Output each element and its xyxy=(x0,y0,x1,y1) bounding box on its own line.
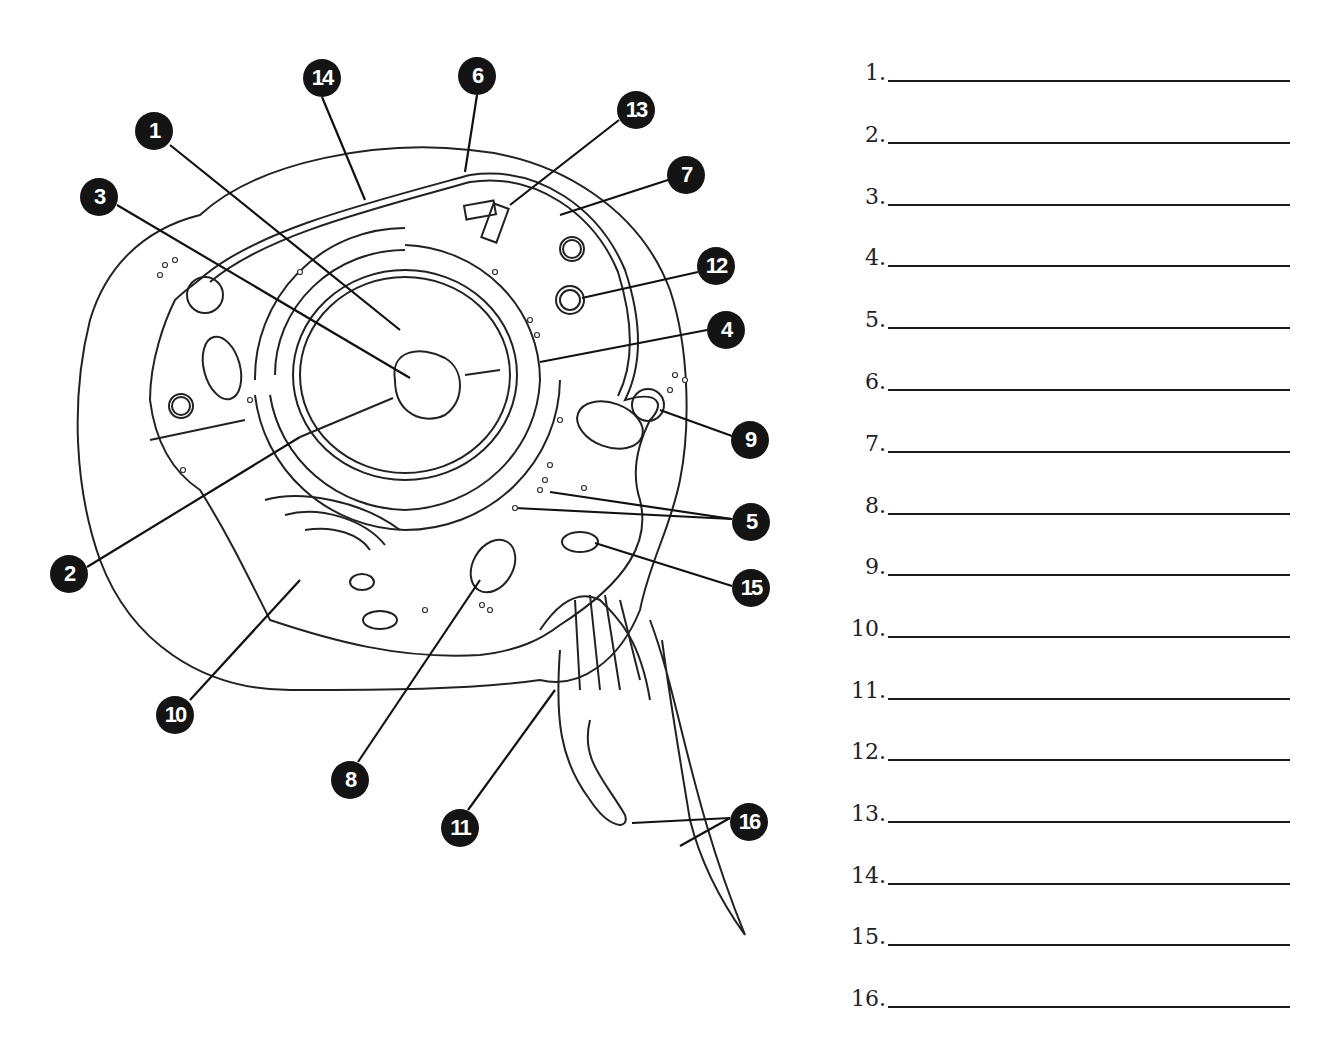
callout-marker-3: 3 xyxy=(80,178,118,216)
answer-number: 15. xyxy=(851,924,886,950)
answer-row-5[interactable]: 5. xyxy=(820,293,1335,333)
answer-blank[interactable] xyxy=(888,204,1290,206)
answer-row-2[interactable]: 2. xyxy=(820,108,1335,148)
answer-number: 8. xyxy=(865,493,886,519)
answer-blank[interactable] xyxy=(888,821,1290,823)
answer-blank[interactable] xyxy=(888,451,1290,453)
answer-number: 7. xyxy=(865,431,886,457)
answer-blank[interactable] xyxy=(888,759,1290,761)
answer-number: 16. xyxy=(851,986,886,1012)
answer-blank[interactable] xyxy=(888,327,1290,329)
answer-number: 4. xyxy=(865,245,886,271)
answer-blank[interactable] xyxy=(888,1006,1290,1008)
answer-row-14[interactable]: 14. xyxy=(820,849,1335,889)
callout-marker-5: 5 xyxy=(732,503,770,541)
callout-marker-2: 2 xyxy=(50,555,88,593)
answer-row-12[interactable]: 12. xyxy=(820,725,1335,765)
callout-marker-14: 14 xyxy=(303,59,341,97)
answer-row-13[interactable]: 13. xyxy=(820,787,1335,827)
callout-marker-7: 7 xyxy=(667,156,705,194)
callout-marker-12: 12 xyxy=(697,247,735,285)
answer-row-1[interactable]: 1. xyxy=(820,46,1335,86)
answer-number: 3. xyxy=(865,184,886,210)
answer-number: 12. xyxy=(851,739,886,765)
callout-marker-6: 6 xyxy=(458,57,496,95)
answer-blank[interactable] xyxy=(888,636,1290,638)
answer-row-11[interactable]: 11. xyxy=(820,664,1335,704)
answer-number: 1. xyxy=(865,60,886,86)
answer-blank[interactable] xyxy=(888,80,1290,82)
answer-blank[interactable] xyxy=(888,142,1290,144)
answer-blank[interactable] xyxy=(888,265,1290,267)
callout-marker-11: 11 xyxy=(441,809,479,847)
answer-blank[interactable] xyxy=(888,883,1290,885)
answer-number: 6. xyxy=(865,369,886,395)
answer-row-3[interactable]: 3. xyxy=(820,170,1335,210)
answer-number: 13. xyxy=(851,801,886,827)
answer-row-16[interactable]: 16. xyxy=(820,972,1335,1012)
callout-marker-13: 13 xyxy=(617,91,655,129)
callout-marker-8: 8 xyxy=(331,761,369,799)
answer-number: 14. xyxy=(851,863,886,889)
answer-number: 2. xyxy=(865,122,886,148)
answer-row-7[interactable]: 7. xyxy=(820,417,1335,457)
callout-marker-10: 10 xyxy=(156,696,194,734)
callout-marker-9: 9 xyxy=(731,421,769,459)
answer-number: 9. xyxy=(865,554,886,580)
answer-blank[interactable] xyxy=(888,389,1290,391)
cell-illustration xyxy=(0,0,820,1044)
answer-row-15[interactable]: 15. xyxy=(820,910,1335,950)
answer-row-4[interactable]: 4. xyxy=(820,231,1335,271)
answer-row-9[interactable]: 9. xyxy=(820,540,1335,580)
answer-blank[interactable] xyxy=(888,513,1290,515)
answer-number: 5. xyxy=(865,307,886,333)
callout-marker-4: 4 xyxy=(707,311,745,349)
answer-row-6[interactable]: 6. xyxy=(820,355,1335,395)
answer-number: 11. xyxy=(851,678,886,704)
answer-row-8[interactable]: 8. xyxy=(820,479,1335,519)
answer-blank[interactable] xyxy=(888,698,1290,700)
answer-list: 1. 2. 3. 4. 5. 6. 7. 8. 9. 10. 11. 12. 1… xyxy=(820,0,1335,1044)
answer-number: 10. xyxy=(851,616,886,642)
cell-diagram: 14 6 1 13 7 3 12 4 9 5 15 2 10 8 11 16 xyxy=(0,0,820,1044)
answer-blank[interactable] xyxy=(888,574,1290,576)
answer-row-10[interactable]: 10. xyxy=(820,602,1335,642)
callout-marker-16: 16 xyxy=(730,803,768,841)
callout-marker-15: 15 xyxy=(732,569,770,607)
answer-blank[interactable] xyxy=(888,944,1290,946)
callout-marker-1: 1 xyxy=(135,112,173,150)
